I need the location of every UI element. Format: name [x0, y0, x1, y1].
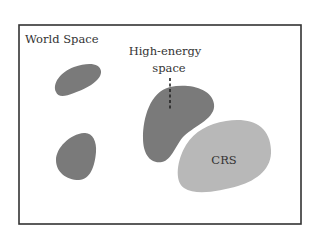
high-energy-region-bottom-left [56, 133, 96, 180]
high-energy-label-line1: High-energy [129, 44, 202, 58]
crs-label: CRS [211, 153, 236, 167]
high-energy-label-line2: space [152, 61, 186, 75]
high-energy-region-top-left [55, 64, 101, 96]
world-space-diagram: World Space High-energy space CRS [0, 0, 315, 241]
world-space-label: World Space [25, 32, 99, 46]
